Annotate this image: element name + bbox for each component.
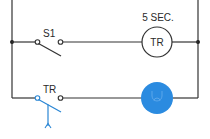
timed-contact-icon — [35, 96, 63, 128]
rung-1: S1 TR 5 SEC. — [10, 12, 200, 57]
tr-contact-label: TR — [43, 84, 56, 95]
lamp-icon — [141, 82, 173, 114]
rung-2: TR — [12, 82, 198, 128]
s1-switch-icon — [35, 40, 63, 56]
ladder-diagram: S1 TR 5 SEC. TR — [0, 0, 210, 139]
timer-setting-label: 5 SEC. — [142, 12, 174, 23]
timer-coil-icon: TR — [142, 27, 172, 57]
coil-label: TR — [150, 37, 163, 48]
s1-label: S1 — [43, 28, 56, 39]
